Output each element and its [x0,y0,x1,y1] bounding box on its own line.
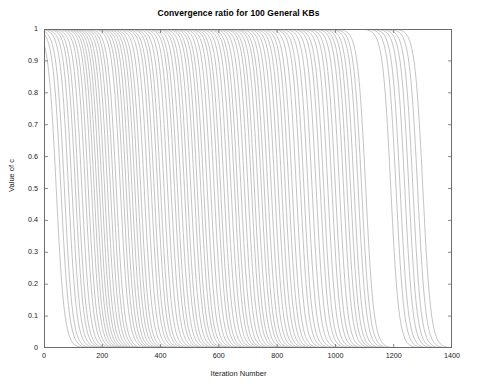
x-tick-label: 1200 [374,352,414,360]
y-tick-label: 0.9 [0,57,38,65]
x-tick-label: 800 [257,352,297,360]
chart-figure: Convergence ratio for 100 General KBs 00… [0,0,477,390]
x-axis-label: Iteration Number [0,369,477,378]
convergence-curves-plot [44,29,452,348]
x-tick-label: 200 [82,352,122,360]
chart-title: Convergence ratio for 100 General KBs [0,8,477,18]
x-tick-label: 600 [199,352,239,360]
y-tick-label: 0.2 [0,280,38,288]
x-tick-label: 400 [141,352,181,360]
x-tick-label: 1400 [432,352,472,360]
plot-area [44,29,452,348]
y-tick-label: 0.3 [0,248,38,256]
y-tick-label: 1 [0,25,38,33]
y-tick-label: 0 [0,344,38,352]
y-tick-label: 0.1 [0,312,38,320]
y-axis-label: Value of c [7,126,16,226]
y-tick-label: 0.8 [0,89,38,97]
x-tick-label: 0 [24,352,64,360]
x-tick-label: 1000 [315,352,355,360]
